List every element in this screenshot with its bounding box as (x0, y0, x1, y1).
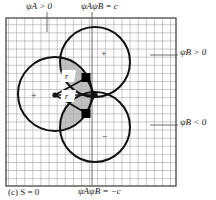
label-psi-a-psi-b-equals-c-text: ψAψB = c (81, 1, 118, 11)
figure-caption-text: (c) S = 0 (8, 187, 39, 197)
square-lower (82, 109, 91, 118)
sign-plus-left-text: + (31, 90, 37, 101)
sign-plus-upper-text: + (101, 48, 107, 59)
label-psi-b-negative: ψB < 0 (180, 118, 206, 127)
radius-label-lower-text: r (65, 92, 68, 101)
label-psi-a-positive: ψA > 0 (26, 2, 52, 11)
figure-caption: (c) S = 0 (8, 187, 39, 197)
label-psi-b-positive-text: ψB > 0 (180, 47, 206, 57)
square-upper (82, 73, 91, 82)
label-psi-a-positive-text: ψA > 0 (26, 1, 52, 11)
label-psi-a-psi-b-equals-minus-c-text: ψAψB = −c (78, 186, 121, 196)
dot-left (52, 92, 57, 97)
label-psi-a-psi-b-equals-minus-c: ψAψB = −c (78, 187, 121, 196)
sign-minus-lower: − (102, 132, 108, 142)
sign-plus-left: + (31, 91, 37, 101)
radius-label-upper-text: r (65, 72, 68, 81)
sign-minus-lower-text: − (102, 131, 108, 142)
figure-container: ψA > 0 ψAψB = c ψB > 0 ψB < 0 ψAψB = −c … (0, 0, 216, 200)
sign-plus-upper: + (101, 49, 107, 59)
dot-right (92, 92, 97, 97)
radius-label-upper: r (65, 72, 68, 81)
label-psi-b-negative-text: ψB < 0 (180, 117, 206, 127)
radius-label-lower: r (65, 92, 68, 101)
label-psi-a-psi-b-equals-c: ψAψB = c (81, 2, 118, 11)
label-psi-b-positive: ψB > 0 (180, 48, 206, 57)
